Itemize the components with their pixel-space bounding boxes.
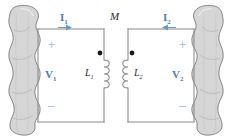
voltage-label-right: V2 [172, 69, 183, 83]
current-label-right-subscript: 2 [167, 18, 170, 25]
current-label-left: I1 [60, 12, 68, 26]
inductor-label-left: L1 [85, 68, 94, 80]
inductor-coil-right [123, 60, 128, 88]
polarity-dot-left [98, 51, 103, 56]
inductor-label-right-subscript: 2 [140, 73, 143, 80]
voltage-label-left-subscript: 1 [53, 75, 56, 82]
mutual-inductance-label: M [110, 11, 119, 22]
network-blob-left [9, 5, 40, 135]
inductor-label-right: L2 [134, 68, 143, 80]
voltage-label-left-symbol: V [45, 68, 53, 80]
voltage-label-right-subscript: 2 [180, 75, 183, 82]
polarity-plus-left: + [48, 39, 55, 51]
current-label-left-subscript: 1 [64, 18, 67, 25]
figure-canvas: I1 M I2 + V1 – L1 L2 + V2 – [0, 0, 232, 140]
current-label-right: I2 [163, 12, 171, 26]
voltage-label-left: V1 [45, 69, 56, 83]
network-blob-right [192, 5, 223, 135]
polarity-minus-left: – [48, 100, 55, 112]
inductor-coil-left [104, 60, 109, 88]
polarity-plus-right: + [179, 39, 186, 51]
polarity-dot-right [130, 51, 135, 56]
voltage-label-right-symbol: V [172, 68, 180, 80]
inductor-label-left-subscript: 1 [91, 73, 94, 80]
polarity-minus-right: – [179, 100, 186, 112]
